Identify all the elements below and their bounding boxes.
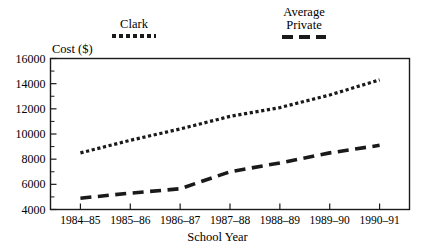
x-tick-label: 1987–88 (210, 214, 251, 226)
axis-frame (51, 59, 410, 210)
plot-area: 40006000800010000120001400016000 1984–85… (0, 0, 435, 250)
x-tick-label: 1985–86 (110, 214, 151, 226)
y-tick-label: 8000 (22, 152, 46, 166)
y-tick-label: 16000 (16, 52, 46, 66)
y-tick-label: 10000 (16, 127, 46, 141)
chart-figure: Clark Average Private Cost ($) School Ye… (0, 0, 435, 250)
series-line-average-private (80, 145, 379, 198)
y-tick-label: 12000 (16, 102, 46, 116)
y-tick-label: 14000 (16, 77, 46, 91)
x-tick-label: 1986–87 (160, 214, 201, 226)
data-series-layer (80, 80, 379, 198)
series-line-clark (80, 80, 379, 153)
x-axis-ticks: 1984–851985–861986–871987–881988–891989–… (60, 204, 400, 226)
x-tick-label: 1989–90 (310, 214, 351, 226)
x-tick-label: 1990–91 (359, 214, 400, 226)
x-tick-label: 1988–89 (260, 214, 301, 226)
y-tick-label: 4000 (22, 203, 46, 217)
x-tick-label: 1984–85 (60, 214, 101, 226)
y-tick-label: 6000 (22, 177, 46, 191)
